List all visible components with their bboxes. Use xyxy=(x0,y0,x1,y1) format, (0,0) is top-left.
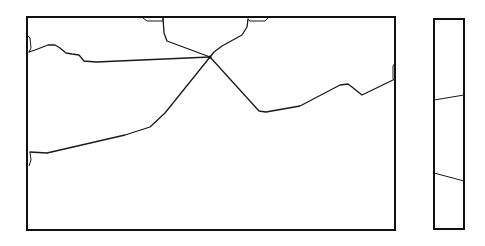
main-panel-frame xyxy=(27,17,395,230)
map-canvas xyxy=(0,0,485,246)
side-region-boundaries xyxy=(434,95,464,181)
west-sliver-bottom-line xyxy=(29,152,31,166)
side-upper-line-line xyxy=(434,95,464,100)
junction-to-southeast-line xyxy=(210,57,395,112)
region-boundaries xyxy=(29,18,395,153)
side-lower-line-line xyxy=(434,173,464,181)
top-right-to-junction-line xyxy=(210,19,248,57)
junction-to-southwest-line xyxy=(30,57,210,153)
top-left-to-junction-line xyxy=(163,18,210,57)
side-map-panel xyxy=(434,19,464,229)
edge-slivers xyxy=(28,18,395,166)
top-sliver-left-line xyxy=(143,18,163,21)
main-map-panel xyxy=(27,17,395,230)
side-panel-frame xyxy=(434,19,464,229)
west-sliver-top-line xyxy=(28,36,31,52)
boundary-junction-point xyxy=(208,55,211,58)
top-sliver-right-line xyxy=(248,18,268,21)
